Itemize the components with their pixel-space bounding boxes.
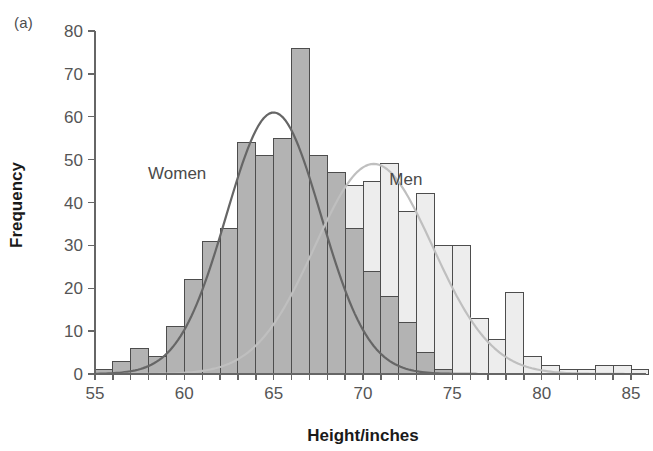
y-tick-label: 80 bbox=[64, 22, 83, 41]
women-bar bbox=[345, 228, 363, 374]
women-bar bbox=[202, 241, 220, 374]
x-tick-labels: 55606570758085 bbox=[86, 384, 641, 403]
men-bar bbox=[452, 245, 470, 374]
x-axis-title: Height/inches bbox=[307, 426, 418, 445]
x-tick-label: 75 bbox=[443, 384, 462, 403]
x-tick-label: 70 bbox=[354, 384, 373, 403]
women-bar bbox=[381, 297, 399, 374]
women-bar bbox=[274, 138, 292, 374]
series-label-women: Women bbox=[148, 164, 206, 183]
women-bar bbox=[292, 48, 310, 374]
y-axis bbox=[88, 31, 95, 374]
y-tick-label: 20 bbox=[64, 279, 83, 298]
x-tick-label: 60 bbox=[175, 384, 194, 403]
women-bar bbox=[363, 271, 381, 374]
histogram-chart: 55606570758085 01020304050607080 Height/… bbox=[0, 0, 653, 451]
x-tick-label: 65 bbox=[264, 384, 283, 403]
women-bar bbox=[256, 155, 274, 374]
y-tick-label: 60 bbox=[64, 108, 83, 127]
y-axis-title: Frequency bbox=[7, 161, 26, 248]
men-bar bbox=[434, 245, 452, 374]
y-tick-label: 40 bbox=[64, 194, 83, 213]
y-tick-label: 10 bbox=[64, 322, 83, 341]
y-tick-label: 30 bbox=[64, 236, 83, 255]
figure-panel: (a) 55606570758085 01020304050607080 Hei… bbox=[0, 0, 653, 451]
men-bar bbox=[417, 194, 435, 374]
x-tick-label: 85 bbox=[622, 384, 641, 403]
men-bar bbox=[524, 357, 542, 374]
men-bar bbox=[470, 318, 488, 374]
men-bar bbox=[595, 365, 613, 374]
y-tick-labels: 01020304050607080 bbox=[64, 22, 83, 384]
x-tick-label: 55 bbox=[86, 384, 105, 403]
x-tick-label: 80 bbox=[532, 384, 551, 403]
women-bar bbox=[220, 228, 238, 374]
y-tick-label: 0 bbox=[74, 365, 83, 384]
men-bar bbox=[613, 365, 631, 374]
women-bar bbox=[238, 142, 256, 374]
series-label-men: Men bbox=[389, 170, 422, 189]
y-tick-label: 50 bbox=[64, 151, 83, 170]
y-tick-label: 70 bbox=[64, 65, 83, 84]
